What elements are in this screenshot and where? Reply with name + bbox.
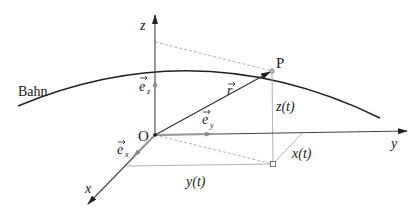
y-component-label: y(t) [184,174,206,190]
trajectory-label: Bahn [18,84,48,99]
unit-z-label: e [139,79,145,94]
unit-vector-y [155,134,212,135]
unit-x-label: e [117,142,123,157]
point-p-label: P [276,55,284,71]
position-vector-label: r [227,83,233,98]
unit-z-subscript: z [146,87,151,96]
z-axis-label: z [139,18,146,33]
x-component-label: x(t) [291,146,312,162]
origin-point [153,133,157,137]
x-axis-label: x [84,181,92,196]
unit-y-label: e [202,112,208,127]
unit-x-subscript: x [124,150,129,159]
point-p [270,69,274,73]
projection-foot [271,162,276,167]
unit-y-subscript: y [209,121,214,130]
origin-label: O [138,128,149,144]
z-component-label: z(t) [275,99,295,115]
y-axis-label: y [389,136,398,151]
coordinate-diagram: Bahn O P z y x r e z e y e x z(t) x(t) y… [0,0,419,216]
